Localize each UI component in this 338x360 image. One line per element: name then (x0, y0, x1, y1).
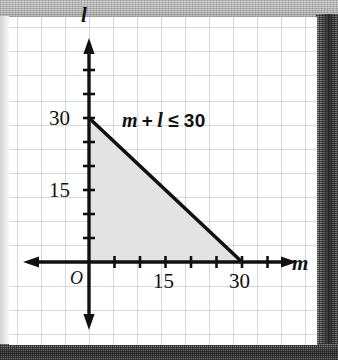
scan-edge-bottom-shadow (0, 344, 338, 360)
x-axis-arrow-left (23, 256, 39, 267)
y-axis-arrow-up (83, 38, 94, 54)
scan-edge-left-texture (0, 16, 9, 348)
y-tick-label-15: 15 (49, 180, 70, 201)
inequality-relation-sign: ≤ (163, 110, 184, 131)
scan-edge-right-shadow (316, 14, 338, 350)
inequality-plus-sign: + (138, 110, 157, 131)
y-axis-arrow-down (83, 314, 94, 330)
x-tick-label-30: 30 (229, 271, 250, 292)
y-axis-label: l (81, 5, 87, 26)
origin-label: O (70, 269, 83, 287)
scanned-figure-page: l m O 30 15 15 30 m+l≤30 (0, 0, 338, 360)
inequality-annotation: m+l≤30 (122, 110, 206, 130)
x-tick-label-15: 15 (153, 271, 174, 292)
x-axis-label: m (292, 253, 308, 274)
inequality-value: 30 (184, 110, 206, 131)
figure-paper: l m O 30 15 15 30 m+l≤30 (9, 17, 317, 345)
inequality-var-m: m (122, 109, 138, 131)
y-tick-label-30: 30 (49, 108, 70, 129)
